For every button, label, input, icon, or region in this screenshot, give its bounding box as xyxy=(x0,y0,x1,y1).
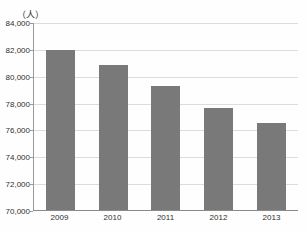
bar-slot xyxy=(87,23,140,210)
y-tick-label: 80,000 xyxy=(6,72,30,81)
y-tick-mark xyxy=(29,211,33,212)
bar-slot xyxy=(34,23,87,210)
y-tick-mark xyxy=(29,23,33,24)
plot-area xyxy=(33,23,298,211)
x-category-label: 2010 xyxy=(86,213,139,222)
y-tick-label: 74,000 xyxy=(6,153,30,162)
bar-chart-figure: （人） 84,00082,00080,00078,00076,00074,000… xyxy=(0,0,307,232)
bar xyxy=(204,108,233,210)
y-tick-label: 84,000 xyxy=(6,19,30,28)
y-tick-label: 82,000 xyxy=(6,45,30,54)
bar xyxy=(99,65,128,210)
x-category-label: 2012 xyxy=(192,213,245,222)
y-tick-mark xyxy=(29,104,33,105)
y-tick-label: 70,000 xyxy=(6,207,30,216)
x-axis-category-labels: 20092010201120122013 xyxy=(33,213,298,222)
bar-series xyxy=(34,23,298,210)
y-tick-mark xyxy=(29,130,33,131)
x-category-label: 2009 xyxy=(33,213,86,222)
bar-slot xyxy=(192,23,245,210)
bar-slot xyxy=(245,23,298,210)
y-tick-mark xyxy=(29,50,33,51)
bar xyxy=(151,86,180,210)
y-tick-mark xyxy=(29,157,33,158)
bar xyxy=(46,50,75,210)
y-tick-mark xyxy=(29,184,33,185)
x-category-label: 2013 xyxy=(245,213,298,222)
y-tick-mark xyxy=(29,77,33,78)
y-tick-label: 78,000 xyxy=(6,99,30,108)
x-category-label: 2011 xyxy=(139,213,192,222)
bar-slot xyxy=(140,23,193,210)
y-tick-label: 72,000 xyxy=(6,180,30,189)
bar xyxy=(257,123,286,210)
y-tick-label: 76,000 xyxy=(6,126,30,135)
